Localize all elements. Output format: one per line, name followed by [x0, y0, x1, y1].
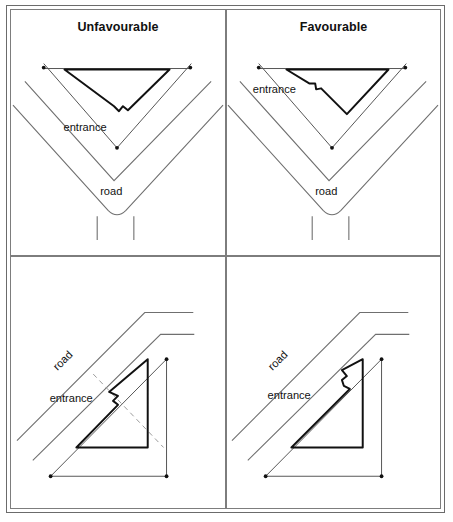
road-label: road [266, 348, 290, 372]
boundary-vertex-dot-left [42, 66, 46, 70]
boundary-vertex-dot-left [257, 66, 261, 70]
boundary-vertex-dot-right [188, 66, 192, 70]
site-boundary-v [259, 64, 407, 148]
top-right-drawing: entrance road [227, 10, 440, 255]
boundary-vertex-dot-top [165, 357, 169, 361]
site-boundary-triangle [51, 359, 167, 476]
entrance-label: entrance [253, 83, 296, 95]
panel-top-left: Unfavourable entrance roa [10, 9, 226, 256]
road-inner-edge [25, 81, 211, 180]
road-inner-edge [240, 81, 426, 180]
boundary-vertex-dot-right [403, 66, 407, 70]
boundary-vertex-dot-apex [115, 146, 119, 150]
entrance-label: entrance [268, 389, 311, 401]
building-triangle [286, 70, 388, 115]
boundary-vertex-dot-apex [330, 146, 334, 150]
site-boundary-triangle [266, 359, 382, 476]
panel-top-right: Favourable entrance road [226, 9, 441, 256]
site-boundary-v [44, 64, 192, 148]
panel-bottom-right: entrance road [226, 256, 441, 509]
bottom-right-drawing: entrance road [227, 257, 440, 508]
dashed-sightline [93, 374, 163, 447]
road-outer-edge [228, 105, 438, 215]
road-label: road [100, 185, 122, 197]
boundary-vertex-dot-bottom-right [165, 474, 169, 478]
road-label: road [315, 185, 337, 197]
road-outer-edge [13, 105, 223, 215]
building-triangle [291, 359, 362, 447]
boundary-vertex-dot-top [380, 357, 384, 361]
diagram-figure: Unfavourable entrance roa [0, 0, 453, 522]
boundary-vertex-dot-bottom-left [264, 474, 268, 478]
top-left-drawing: entrance road [11, 10, 225, 255]
entrance-label: entrance [64, 121, 107, 133]
bottom-left-drawing: entrance road [11, 257, 225, 508]
road-label: road [50, 348, 74, 372]
entrance-label: entrance [50, 392, 93, 404]
boundary-vertex-dot-bottom-left [49, 474, 53, 478]
panel-bottom-left: entrance road [10, 256, 226, 509]
boundary-vertex-dot-bottom-right [380, 474, 384, 478]
panel-grid: Unfavourable entrance roa [10, 9, 441, 509]
